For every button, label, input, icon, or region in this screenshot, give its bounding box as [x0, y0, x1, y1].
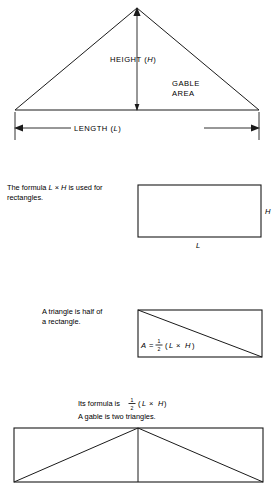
- formula-l: L: [169, 341, 173, 350]
- figure-rectangle-formula: The formula L × H is used for rectangles…: [0, 175, 276, 250]
- rectangle-label-h: H: [265, 207, 271, 216]
- figure-triangle-half: A triangle is half of a rectangle. A = 1…: [0, 300, 276, 365]
- gable-caption-denominator: 2: [131, 405, 134, 411]
- gable-caption-l: L: [142, 399, 146, 408]
- height-arrow-head-up-icon: [133, 7, 140, 16]
- figure-gable-triangle: HEIGHT (H) GABLE AREA LENGTH (L): [0, 0, 276, 145]
- rectangle-caption-line1: The formula L × H is used for: [7, 183, 103, 192]
- gable-caption-line2: A gable is two triangles.: [78, 412, 156, 421]
- gable-area-label-line2: AREA: [172, 89, 195, 98]
- formula-denominator: 2: [158, 346, 161, 352]
- height-label: HEIGHT (H): [110, 55, 156, 64]
- gable-caption-prefix: Its formula is: [78, 399, 120, 408]
- rectangle-label-l: L: [196, 241, 200, 250]
- rectangle-formula-svg: The formula L × H is used for rectangles…: [0, 175, 276, 250]
- gable-caption-close-paren: ): [164, 399, 166, 408]
- area-formula: A = 1 2 ( L × H ): [140, 338, 195, 352]
- diagram-page: HEIGHT (H) GABLE AREA LENGTH (L) The for…: [0, 0, 276, 492]
- triangle-caption-line1: A triangle is half of: [42, 307, 103, 316]
- formula-numerator: 1: [158, 338, 161, 344]
- gable-triangle-svg: HEIGHT (H) GABLE AREA LENGTH (L): [0, 0, 276, 145]
- formula-a: A: [140, 341, 146, 350]
- length-label: LENGTH (L): [74, 124, 121, 133]
- rectangle-caption-line2: rectangles.: [7, 193, 43, 202]
- formula-times: ×: [176, 341, 180, 350]
- rectangle-shape: [138, 185, 261, 237]
- gable-caption-times: ×: [149, 399, 153, 408]
- gable-caption-numerator: 1: [131, 397, 134, 403]
- figure-gable-two-triangles: Its formula is 1 2 ( L × H ) A gable is …: [0, 392, 276, 488]
- triangle-half-svg: A triangle is half of a rectangle. A = 1…: [0, 300, 276, 365]
- formula-h: H: [185, 341, 191, 350]
- gable-area-label-line1: GABLE: [172, 79, 200, 88]
- triangle-caption-line2: a rectangle.: [42, 317, 81, 326]
- gable-caption-open-paren: (: [138, 399, 141, 408]
- formula-equals: =: [149, 341, 154, 350]
- gable-two-triangles-svg: Its formula is 1 2 ( L × H ) A gable is …: [0, 392, 276, 488]
- gable-caption-line1: Its formula is 1 2 ( L × H ): [78, 397, 166, 411]
